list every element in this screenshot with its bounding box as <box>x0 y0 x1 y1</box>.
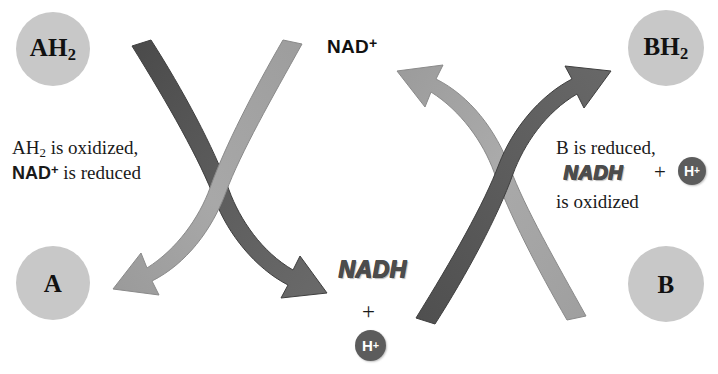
hplus-badge-right: H+ <box>678 157 706 185</box>
redox-diagram-canvas: AH2 A BH2 B NAD+ NADH + H+ AH2 is oxidiz… <box>0 0 718 374</box>
annotation-left-line2: NAD+ is reduced <box>12 161 141 185</box>
plus-sign-bottom: + <box>362 300 375 323</box>
molecule-label-a: A <box>44 271 62 296</box>
arrow-nadplus-to-a <box>113 40 302 295</box>
annotation-left: AH2 is oxidized, NAD+ is reduced <box>12 136 141 186</box>
annotation-right-line3: is oxidized <box>556 190 656 214</box>
molecule-circle-a: A <box>16 246 90 320</box>
plus-sign-right: + <box>654 162 666 183</box>
label-nadh-right: NADH <box>563 161 623 184</box>
molecule-circle-b: B <box>628 246 704 322</box>
molecule-label-bh2: BH2 <box>644 34 689 62</box>
molecule-circle-ah2: AH2 <box>16 12 90 86</box>
annotation-right-line1: B is reduced, <box>556 136 656 160</box>
molecule-circle-bh2: BH2 <box>628 10 704 86</box>
label-nad-plus: NAD+ <box>327 35 378 58</box>
label-nadh-bottom: NADH <box>338 256 406 283</box>
hplus-badge-bottom: H+ <box>355 330 386 361</box>
arrow-ah2-to-nadh <box>132 40 327 298</box>
annotation-left-line1: AH2 is oxidized, <box>12 136 141 161</box>
molecule-label-ah2: AH2 <box>30 35 76 63</box>
molecule-label-b: B <box>658 272 675 297</box>
